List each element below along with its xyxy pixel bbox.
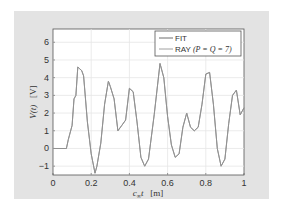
x-tick-label: 0.8 (200, 178, 213, 188)
x-tick-label: 0 (50, 178, 55, 188)
y-tick-label: 1 (44, 126, 49, 136)
y-tick-label: 2 (44, 108, 49, 118)
y-tick-label: 6 (44, 37, 49, 47)
y-axis-label: V(t) [V] (28, 85, 38, 118)
y-tick-label: 5 (44, 55, 49, 65)
legend-ray-params: (P = Q = 7) (193, 45, 232, 54)
x-tick-label: 1 (241, 178, 246, 188)
y-tick-label: 4 (44, 73, 49, 83)
legend-ray-name: RAY (175, 45, 193, 54)
legend-fit-label: FIT (175, 34, 187, 43)
y-tick-label: 0 (44, 143, 49, 153)
line-chart: 00.20.40.60.81−10123456 FIT RAY (P = Q =… (0, 0, 282, 211)
legend-ray-label: RAY (P = Q = 7) (175, 45, 232, 54)
x-axis-label: c∞t [m] (133, 188, 164, 199)
y-tick-label: 3 (44, 90, 49, 100)
y-tick-label: −1 (39, 161, 49, 171)
x-tick-label: 0.4 (123, 178, 136, 188)
legend: FIT RAY (P = Q = 7) (155, 31, 241, 56)
x-tick-label: 0.6 (161, 178, 174, 188)
x-tick-label: 0.2 (85, 178, 98, 188)
